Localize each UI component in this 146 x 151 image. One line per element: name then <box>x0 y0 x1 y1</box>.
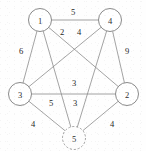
edge-4-2 <box>113 31 125 83</box>
node-5[interactable]: 5 <box>63 127 86 150</box>
edge-4-5 <box>77 31 106 127</box>
edge-weight-4-3: 4 <box>77 27 82 37</box>
edge-weight-1-5: 5 <box>49 98 53 108</box>
edge-4-3 <box>29 27 101 86</box>
edge-weight-1-2: 2 <box>60 27 64 37</box>
edge-weight-1-4: 5 <box>71 7 75 17</box>
graph-figure: 14325 5246935344 <box>0 0 146 151</box>
edge-weight-3-2: 3 <box>72 78 76 88</box>
edges-layer <box>23 20 124 131</box>
node-label-5: 5 <box>72 134 76 144</box>
edge-weight-4-2: 9 <box>125 46 129 56</box>
node-label-2: 2 <box>125 90 129 100</box>
edge-1-5 <box>43 31 71 127</box>
edge-weight-3-5: 4 <box>31 119 36 129</box>
edge-1-3 <box>23 31 37 83</box>
node-label-1: 1 <box>38 16 42 26</box>
edge-weight-1-3: 6 <box>19 46 23 56</box>
edge-weight-4-5: 3 <box>73 98 77 108</box>
node-label-3: 3 <box>18 90 22 100</box>
node-1[interactable]: 1 <box>29 9 52 32</box>
node-3[interactable]: 3 <box>9 83 32 106</box>
edge-weight-2-5: 4 <box>110 119 115 129</box>
node-2[interactable]: 2 <box>116 83 139 106</box>
graph-canvas: 14325 5246935344 <box>0 0 146 151</box>
node-4[interactable]: 4 <box>99 9 122 32</box>
